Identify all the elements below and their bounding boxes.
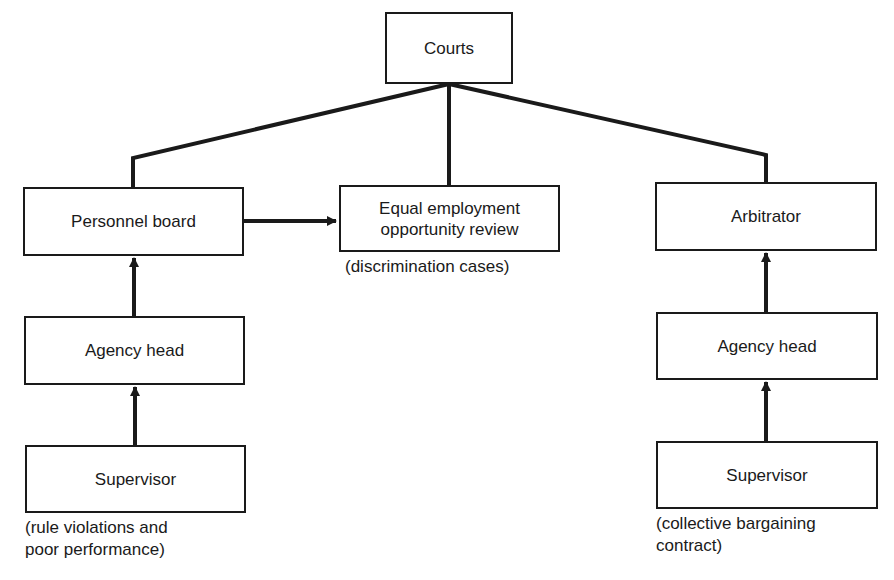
node-courts: Courts (385, 12, 513, 84)
caption-right-supervisor: (collective bargaining contract) (656, 513, 816, 557)
caption-eeo: (discrimination cases) (345, 256, 509, 278)
node-supervisor-left: Supervisor (25, 445, 246, 513)
node-agency-head-right: Agency head (656, 312, 878, 380)
node-eeo-review: Equal employment opportunity review (339, 185, 560, 252)
node-supervisor-right: Supervisor (656, 441, 878, 509)
node-personnel-board: Personnel board (23, 187, 244, 256)
line-courts-personnel-board (133, 84, 449, 187)
node-arbitrator: Arbitrator (655, 182, 877, 251)
node-agency-head-left: Agency head (24, 316, 245, 385)
caption-left-supervisor: (rule violations and poor performance) (25, 517, 168, 561)
line-courts-arbitrator (449, 84, 766, 182)
